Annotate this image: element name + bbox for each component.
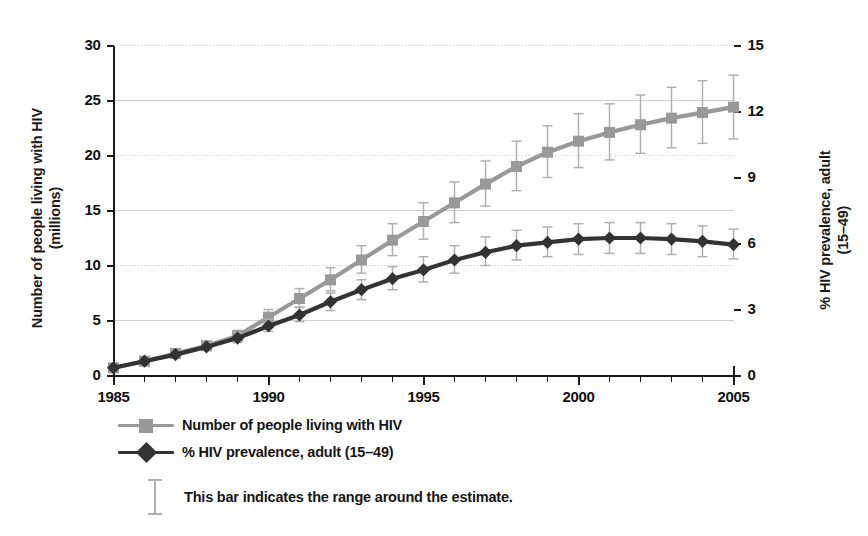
legend-item-number-living-with-hiv[interactable]: Number of people living with HIV: [118, 416, 402, 434]
x-tick-label-2000: 2000: [549, 388, 609, 405]
data-point: [634, 231, 647, 244]
data-point: [510, 239, 523, 252]
x-tick-label-1995: 1995: [394, 388, 454, 405]
right-axis-title-line2: (15–49): [834, 100, 852, 360]
left-tick-label-20: 20: [61, 146, 101, 163]
data-point: [325, 274, 336, 285]
error-bar-icon: [140, 477, 170, 517]
left-tick-label-25: 25: [61, 91, 101, 108]
data-point: [697, 107, 708, 118]
data-point: [356, 255, 367, 266]
data-point: [417, 263, 430, 276]
legend-label-1: % HIV prevalence, adult (15–49): [182, 444, 393, 460]
data-point: [448, 253, 461, 266]
data-point: [293, 308, 306, 321]
data-point: [727, 238, 740, 251]
data-point: [480, 179, 491, 190]
right-tick-label-12: 12: [748, 102, 788, 119]
legend-swatch-square-icon: [118, 416, 174, 434]
data-point: [541, 236, 554, 249]
x-tick-label-1985: 1985: [84, 388, 144, 405]
right-tick-label-6: 6: [748, 234, 788, 251]
data-point: [635, 119, 646, 130]
series-number-living-with-hiv: [108, 75, 739, 373]
data-point: [294, 293, 305, 304]
data-point: [324, 295, 337, 308]
left-axis-title-line1: Number of people living with HIV: [28, 88, 46, 348]
legend-label-0: Number of people living with HIV: [182, 417, 402, 433]
left-tick-label-5: 5: [61, 311, 101, 328]
right-tick-label-3: 3: [748, 300, 788, 317]
series-hiv-prevalence: [107, 223, 740, 375]
data-point: [511, 161, 522, 172]
data-point: [604, 127, 615, 138]
right-tick-label-9: 9: [748, 168, 788, 185]
left-tick-label-15: 15: [61, 201, 101, 218]
data-point: [418, 216, 429, 227]
data-point: [449, 197, 460, 208]
data-point: [542, 147, 553, 158]
data-point: [665, 233, 678, 246]
data-point: [666, 113, 677, 124]
data-point: [387, 235, 398, 246]
data-point: [728, 102, 739, 113]
data-point: [479, 246, 492, 259]
left-tick-label-0: 0: [61, 366, 101, 383]
right-axis-title: % HIV prevalence, adult (15–49): [816, 100, 852, 360]
left-tick-label-10: 10: [61, 256, 101, 273]
x-tick-label-2005: 2005: [704, 388, 764, 405]
data-point: [572, 233, 585, 246]
right-tick-label-0: 0: [748, 366, 788, 383]
x-tick-label-1990: 1990: [239, 388, 299, 405]
left-axis-title-line2: (millions): [46, 88, 64, 348]
data-point: [696, 235, 709, 248]
data-point: [355, 283, 368, 296]
legend-item-hiv-prevalence[interactable]: % HIV prevalence, adult (15–49): [118, 443, 393, 461]
right-axis-title-line1: % HIV prevalence, adult: [816, 100, 834, 360]
left-axis-title: Number of people living with HIV (millio…: [28, 88, 64, 348]
right-tick-label-15: 15: [748, 36, 788, 53]
chart-figure: Number of people living with HIV (millio…: [0, 0, 868, 536]
data-point: [573, 136, 584, 147]
left-tick-label-30: 30: [61, 36, 101, 53]
data-point: [386, 272, 399, 285]
legend-swatch-diamond-icon: [118, 443, 174, 461]
data-point: [603, 231, 616, 244]
error-bar-note-text: This bar indicates the range around the …: [184, 489, 513, 505]
error-bar-note: This bar indicates the range around the …: [140, 477, 513, 517]
